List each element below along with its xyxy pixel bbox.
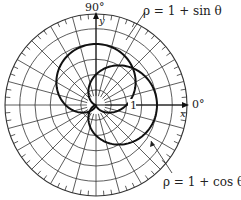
sin-curve-label: ρ = 1 + sin θ [143,4,222,18]
grid-spoke [17,110,88,151]
rim-tick [38,35,41,39]
rim-tick [181,120,186,121]
rim-tick [80,190,81,195]
rim-tick [21,53,25,56]
rim-tick [26,47,30,50]
rim-tick [166,154,170,157]
rim-tick [65,19,67,24]
polar-chart-canvas: 1 90° 0° y x ρ = 1 + sin θ ρ = 1 + cos θ [0,0,241,200]
rim-tick [177,74,182,76]
rim-tick [125,186,127,191]
rim-tick [132,23,134,28]
rim-tick [58,183,60,188]
rim-tick [58,23,60,28]
rim-tick [151,35,154,39]
rim-tick [174,67,179,69]
x-axis-label: x [180,108,186,119]
radius-one-label: 1 [130,99,137,112]
rim-tick [14,141,19,143]
angle-0-label: 0° [192,98,205,111]
rim-tick [80,15,81,20]
rim-tick [111,15,112,20]
rim-tick [177,134,182,136]
rim-tick [21,154,25,157]
rim-tick [38,171,41,175]
rim-tick [181,89,186,90]
rim-tick [10,134,15,136]
grid-spoke [101,113,142,184]
grid-spoke [17,60,88,101]
rim-tick [174,141,179,143]
rim-tick [10,74,15,76]
cos-curve-label: ρ = 1 + cos θ [163,175,241,189]
grid-spoke [51,113,92,184]
rim-tick [132,183,134,188]
angle-90-label: 90° [85,1,105,14]
rim-tick [145,30,148,34]
rim-tick [111,190,112,195]
y-axis-label: y [98,15,105,26]
rim-tick [44,175,47,179]
rim-tick [65,186,67,191]
rim-tick [44,30,47,34]
rim-tick [26,160,30,163]
rim-tick [125,19,127,24]
leaders [126,12,172,173]
rim-tick [166,53,170,56]
rim-tick [162,47,166,50]
rim-tick [151,171,154,175]
rim-tick [6,89,11,90]
rim-tick [14,67,19,69]
rim-tick [145,175,148,179]
rim-tick [6,120,11,121]
polar-plot: 1 90° 0° y x ρ = 1 + sin θ ρ = 1 + cos θ [0,0,241,200]
